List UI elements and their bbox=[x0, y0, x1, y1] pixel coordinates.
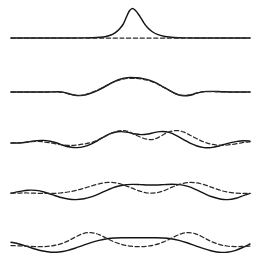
panels-group bbox=[11, 9, 250, 253]
panel-stage-5 bbox=[11, 233, 250, 253]
panel-stage-1 bbox=[11, 9, 250, 38]
figure-canvas bbox=[0, 0, 259, 267]
panel-stage-5-curve-dashed bbox=[11, 233, 250, 247]
panel-stage-3-curve-dashed bbox=[11, 131, 250, 146]
panel-stage-2 bbox=[11, 78, 250, 96]
panel-stage-3 bbox=[11, 131, 250, 148]
panel-stage-2-curve-dashed bbox=[11, 78, 250, 95]
panel-stage-4-curve-solid bbox=[11, 184, 250, 199]
pulse-evolution-figure bbox=[0, 0, 259, 267]
panel-stage-5-curve-solid bbox=[11, 238, 250, 253]
panel-stage-1-curve-solid bbox=[11, 9, 250, 38]
panel-stage-4 bbox=[11, 182, 250, 199]
panel-stage-2-curve-solid bbox=[11, 78, 250, 96]
